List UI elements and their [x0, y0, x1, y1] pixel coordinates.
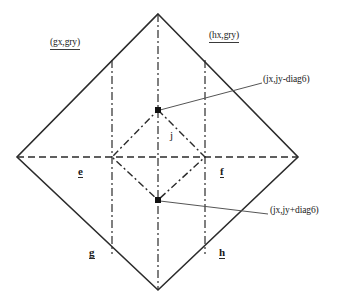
- label-node-f: f: [220, 166, 224, 178]
- label-top-right-coordinate: (hx,gry): [209, 31, 239, 43]
- upper-leader-line: [160, 83, 262, 110]
- label-top-left-coordinate: (gx,gry): [50, 38, 80, 50]
- label-node-e: e: [78, 166, 83, 178]
- label-node-h: h: [219, 247, 225, 259]
- lower-leader-line: [160, 201, 268, 214]
- label-node-j: j: [170, 130, 173, 141]
- label-upper-annotation: (jx,jy-diag6): [263, 75, 309, 85]
- label-node-g: g: [89, 247, 95, 259]
- outer-diamond: [17, 14, 298, 290]
- lower-vertex-marker-icon: [155, 197, 161, 203]
- label-lower-annotation: (jx,jy+diag6): [270, 206, 319, 216]
- upper-vertex-marker-icon: [155, 107, 161, 113]
- diagram-root: (gx,gry) (hx,gry) (jx,jy-diag6) (jx,jy+d…: [0, 0, 351, 302]
